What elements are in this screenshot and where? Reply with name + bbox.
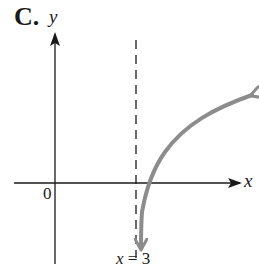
asymptote-var: x (116, 249, 124, 264)
graph-canvas (0, 0, 259, 264)
y-axis-label: y (49, 6, 57, 28)
origin-label: 0 (43, 184, 52, 204)
x-axis-label: x (244, 170, 252, 192)
log-curve (141, 95, 252, 248)
panel-label: C. (14, 2, 39, 32)
asymptote-label: x = 3 (116, 249, 150, 264)
asymptote-eq: = 3 (124, 249, 151, 264)
